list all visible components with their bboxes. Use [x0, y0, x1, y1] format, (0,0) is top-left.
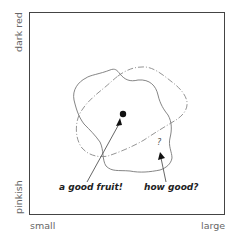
- x-axis-right-label: large: [201, 220, 225, 231]
- question-mark: ?: [157, 138, 161, 147]
- arrowhead-icon: [116, 118, 122, 126]
- how-good-arrow: [161, 158, 166, 182]
- how-good-annotation: how good?: [144, 182, 199, 192]
- diagram-canvas: [0, 0, 239, 244]
- y-axis-top-label: dark red: [13, 12, 24, 52]
- arrowhead-icon: [158, 152, 165, 160]
- solid-region: [74, 69, 172, 172]
- good-fruit-annotation: a good fruit!: [59, 182, 123, 192]
- x-axis-left-label: small: [30, 220, 55, 231]
- good-fruit-point: [120, 111, 126, 117]
- y-axis-bottom-label: pinkish: [13, 180, 24, 214]
